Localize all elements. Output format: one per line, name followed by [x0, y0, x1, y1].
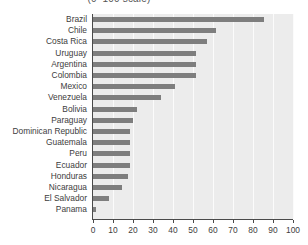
category-label: Uruguay: [0, 48, 87, 59]
category-label: Paraguay: [0, 115, 87, 126]
x-tick-50: [193, 220, 194, 223]
bar-row: [93, 104, 293, 115]
category-label: Chile: [0, 25, 87, 36]
bar: [93, 151, 130, 156]
x-tick-60: [213, 220, 214, 223]
bar-row: [93, 182, 293, 193]
bar-row: [93, 204, 293, 215]
category-label: Brazil: [0, 14, 87, 25]
bar: [93, 185, 122, 190]
x-tick-100: [293, 220, 294, 223]
category-label: Ecuador: [0, 160, 87, 171]
bar: [93, 39, 207, 44]
bar: [93, 140, 130, 145]
gridline-100: [293, 14, 294, 219]
x-tick-30: [153, 220, 154, 223]
category-label: Costa Rica: [0, 36, 87, 47]
bar-row: [93, 14, 293, 25]
bar: [93, 28, 216, 33]
bar-row: [93, 70, 293, 81]
y-axis-line: [92, 14, 93, 219]
bar: [93, 95, 161, 100]
bar: [93, 84, 175, 89]
x-tick-label: 100: [280, 225, 306, 235]
x-tick-70: [233, 220, 234, 223]
bar-chart-figure: (0–100 scale) BrazilChileCosta RicaUrugu…: [0, 0, 308, 245]
bar-row: [93, 92, 293, 103]
x-tick-80: [253, 220, 254, 223]
category-label: El Salvador: [0, 193, 87, 204]
bar: [93, 207, 96, 212]
bar-row: [93, 48, 293, 59]
category-label: Peru: [0, 148, 87, 159]
bar-row: [93, 126, 293, 137]
category-axis-labels: BrazilChileCosta RicaUruguayArgentinaCol…: [0, 14, 90, 219]
bar-row: [93, 81, 293, 92]
bar: [93, 107, 137, 112]
bar-row: [93, 160, 293, 171]
category-label: Nicaragua: [0, 182, 87, 193]
category-label: Colombia: [0, 70, 87, 81]
bar-row: [93, 193, 293, 204]
bar: [93, 129, 130, 134]
category-label: Panama: [0, 204, 87, 215]
x-tick-0: [93, 220, 94, 223]
category-label: Venezuela: [0, 92, 87, 103]
bar: [93, 118, 133, 123]
bar-row: [93, 36, 293, 47]
bar: [93, 163, 130, 168]
bar: [93, 174, 128, 179]
bar-row: [93, 171, 293, 182]
bar-row: [93, 148, 293, 159]
bar-row: [93, 59, 293, 70]
x-tick-90: [273, 220, 274, 223]
x-tick-20: [133, 220, 134, 223]
bar: [93, 17, 264, 22]
bar: [93, 73, 196, 78]
category-label: Honduras: [0, 171, 87, 182]
x-tick-10: [113, 220, 114, 223]
bar-row: [93, 115, 293, 126]
bar: [93, 51, 196, 56]
bar: [93, 62, 196, 67]
category-label: Dominican Republic: [0, 126, 87, 137]
category-label: Argentina: [0, 59, 87, 70]
x-tick-40: [173, 220, 174, 223]
plot-area: [93, 14, 293, 219]
chart-title: (0–100 scale): [0, 0, 238, 4]
bar-row: [93, 25, 293, 36]
bar: [93, 196, 109, 201]
category-label: Bolivia: [0, 104, 87, 115]
bar-row: [93, 137, 293, 148]
category-label: Guatemala: [0, 137, 87, 148]
bars-layer: [93, 14, 293, 219]
category-label: Mexico: [0, 81, 87, 92]
